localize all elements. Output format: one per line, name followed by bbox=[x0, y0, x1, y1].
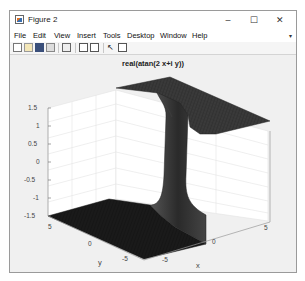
property-inspector-icon[interactable] bbox=[118, 43, 127, 52]
z-tick-label: -1.5 bbox=[24, 212, 35, 219]
y-tick-label: 5 bbox=[48, 223, 52, 230]
maximize-button[interactable]: ☐ bbox=[243, 13, 265, 27]
new-figure-icon[interactable] bbox=[13, 43, 22, 52]
x-tick-label: -5 bbox=[162, 256, 168, 263]
open-file-icon[interactable] bbox=[24, 43, 33, 52]
x-tick-label: 0 bbox=[212, 238, 216, 245]
menu-bar: File Edit View Insert Tools Desktop Wind… bbox=[10, 29, 296, 42]
menu-desktop[interactable]: Desktop bbox=[127, 31, 155, 40]
y-tick-label: 0 bbox=[88, 240, 92, 247]
matlab-figure-icon bbox=[15, 15, 24, 24]
menu-overflow-arrow-icon[interactable]: ▾ bbox=[289, 32, 292, 39]
menu-help[interactable]: Help bbox=[192, 31, 207, 40]
toolbar-separator bbox=[103, 43, 104, 53]
menu-insert[interactable]: Insert bbox=[77, 31, 96, 40]
z-tick-label: 0.5 bbox=[28, 140, 37, 147]
toolbar-separator bbox=[75, 43, 76, 53]
figure-window: Figure 2 – ☐ ✕ File Edit View Insert Too… bbox=[9, 10, 297, 273]
menu-view[interactable]: View bbox=[54, 31, 70, 40]
close-button[interactable]: ✕ bbox=[269, 13, 291, 27]
figure-canvas[interactable]: real(atan(2 x+i y)) bbox=[10, 55, 296, 272]
menu-edit[interactable]: Edit bbox=[33, 31, 46, 40]
surface-plot[interactable] bbox=[10, 55, 296, 272]
edit-plot-icon[interactable]: ↖ bbox=[107, 43, 116, 52]
minimize-button[interactable]: – bbox=[217, 13, 239, 27]
menu-file[interactable]: File bbox=[14, 31, 26, 40]
y-axis-label: y bbox=[98, 258, 102, 267]
save-icon[interactable] bbox=[35, 43, 44, 52]
menu-tools[interactable]: Tools bbox=[103, 31, 121, 40]
z-tick-label: 1 bbox=[36, 122, 40, 129]
z-tick-label: 0 bbox=[36, 158, 40, 165]
y-tick-label: -5 bbox=[122, 255, 128, 262]
insert-colorbar-icon[interactable] bbox=[79, 43, 88, 52]
z-tick-label: -0.5 bbox=[24, 176, 35, 183]
window-title: Figure 2 bbox=[28, 15, 57, 24]
print-icon[interactable] bbox=[46, 43, 55, 52]
insert-legend-icon[interactable] bbox=[90, 43, 99, 52]
z-tick-label: 1.5 bbox=[28, 104, 37, 111]
toolbar-separator bbox=[58, 43, 59, 53]
toolbar: ↖ bbox=[10, 42, 296, 55]
x-axis-label: x bbox=[196, 261, 200, 270]
z-tick-label: -1 bbox=[33, 194, 39, 201]
x-tick-label: 5 bbox=[264, 224, 268, 231]
title-bar: Figure 2 – ☐ ✕ bbox=[10, 11, 296, 29]
menu-window[interactable]: Window bbox=[160, 31, 187, 40]
link-plot-icon[interactable] bbox=[62, 43, 71, 52]
